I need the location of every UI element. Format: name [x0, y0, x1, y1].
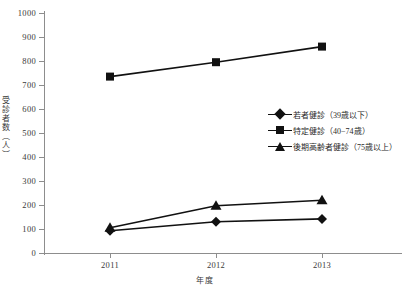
data-series: [106, 43, 326, 81]
legend-item[interactable]: 若者健診（39歳以下）: [268, 106, 410, 122]
legend-marker-triangle-icon: [268, 140, 292, 152]
legend-item-label: 若者健診（39歳以下）: [293, 109, 373, 120]
data-point-marker: [212, 58, 220, 66]
data-point-marker: [211, 217, 221, 227]
legend-item[interactable]: 後期高齢者健診（75歳以上）: [268, 138, 410, 154]
legend-item[interactable]: 特定健診（40−74歳）: [268, 122, 410, 138]
data-point-marker: [106, 73, 114, 81]
legend-marker-square-icon: [268, 124, 292, 136]
chart-legend: 若者健診（39歳以下）特定健診（40−74歳）後期高齢者健診（75歳以上）: [268, 106, 410, 154]
legend-item-label: 後期高齢者健診（75歳以上）: [293, 141, 397, 152]
data-point-marker: [317, 214, 327, 224]
data-series: [105, 214, 327, 236]
line-chart: 10009008007006005004003002001000 2011201…: [0, 0, 410, 294]
data-point-marker: [317, 195, 328, 205]
legend-item-label: 特定健診（40−74歳）: [293, 125, 370, 136]
data-point-marker: [318, 43, 326, 51]
legend-marker-diamond-icon: [268, 108, 292, 120]
